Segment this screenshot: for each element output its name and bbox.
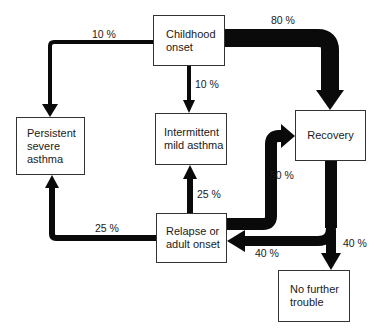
arrowhead-persistent-bottom: [45, 175, 59, 188]
arrowhead-intermittent: [183, 100, 195, 113]
arrow-childhood-to-recovery: [225, 38, 330, 92]
edge-label-childhood-recovery: 80 %: [271, 14, 295, 26]
edge-label-childhood-intermittent: 10 %: [195, 78, 219, 90]
arrow-childhood-to-persistent: [50, 42, 153, 106]
node-recovery: Recovery: [295, 110, 366, 161]
edge-label-relapse-recovery: 50 %: [270, 169, 294, 181]
node-label: Intermittent mild asthma: [164, 126, 223, 152]
node-label: Relapse or adult onset: [166, 225, 220, 251]
node-no-further-trouble: No further trouble: [278, 270, 350, 322]
edge-label-relapse-persistent: 25 %: [95, 222, 119, 234]
arrowhead-no-trouble: [321, 253, 341, 270]
node-persistent-severe-asthma: Persistent severe asthma: [16, 117, 85, 175]
arrowhead-relapse-right: [227, 230, 245, 252]
arrowhead-intermittent-bottom: [183, 165, 197, 179]
edge-label-relapse-intermittent: 25 %: [197, 188, 221, 200]
arrowhead-recovery-top: [316, 90, 344, 110]
node-label: Persistent severe asthma: [27, 127, 76, 166]
node-relapse-adult-onset: Relapse or adult onset: [156, 213, 227, 263]
edge-label-recovery-relapse: 40 %: [255, 247, 279, 259]
arrowhead-recovery-left: [281, 124, 295, 148]
edge-label-recovery-no-trouble: 40 %: [343, 237, 367, 249]
node-label: Childhood onset: [166, 28, 216, 54]
node-label: Recovery: [307, 129, 353, 142]
arrowhead-persistent: [42, 104, 58, 117]
node-intermittent-mild-asthma: Intermittent mild asthma: [155, 113, 227, 165]
node-childhood-onset: Childhood onset: [153, 15, 225, 66]
edge-label-childhood-persistent: 10 %: [92, 28, 116, 40]
node-label: No further trouble: [290, 283, 339, 309]
